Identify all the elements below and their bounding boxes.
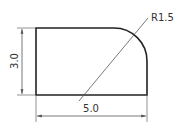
technical-drawing: 3.0 5.0 R1.5: [0, 0, 178, 137]
height-dimension-label: 3.0: [9, 53, 20, 69]
radius-label: R1.5: [151, 12, 174, 23]
radius-leader-line: [79, 18, 148, 101]
width-dimension-label: 5.0: [83, 103, 99, 114]
part-outline: [36, 28, 147, 95]
